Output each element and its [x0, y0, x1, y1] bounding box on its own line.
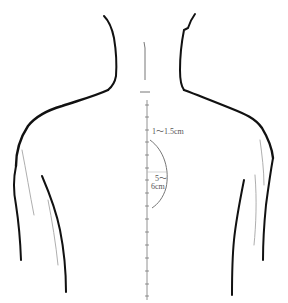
upper-distance-label: 1～1.5cm [152, 127, 184, 136]
left-outline [14, 16, 116, 292]
back-diagram [0, 0, 288, 303]
right-outline [180, 14, 273, 295]
arc-distance-label-line2: 6cm [151, 182, 165, 191]
spine-guide [140, 42, 168, 300]
